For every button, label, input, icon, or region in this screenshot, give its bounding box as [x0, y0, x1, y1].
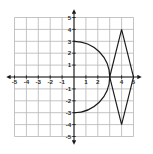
x-tick-label: -4 — [24, 78, 30, 85]
y-tick-label: 4 — [68, 26, 72, 33]
coordinate-graph-figure: -5-4-3-2-1124554321-1-2-3-4-5 — [0, 0, 153, 154]
y-tick-label: -2 — [66, 97, 72, 104]
x-tick-label: 2 — [96, 78, 100, 85]
y-tick-label: -5 — [66, 133, 72, 140]
x-tick-label: 1 — [84, 78, 88, 85]
x-tick-label: 5 — [132, 78, 136, 85]
y-tick-label: -1 — [66, 85, 72, 92]
y-tick-label: 1 — [68, 61, 72, 68]
y-tick-label: 3 — [68, 38, 72, 45]
axes — [8, 11, 140, 143]
y-tick-label: 5 — [68, 14, 72, 21]
y-tick-label: -4 — [66, 121, 72, 128]
x-tick-label: -2 — [47, 78, 53, 85]
x-tick-label: -3 — [36, 78, 42, 85]
y-tick-label: 2 — [68, 49, 72, 56]
y-tick-label: -3 — [66, 109, 72, 116]
graph-canvas: -5-4-3-2-1124554321-1-2-3-4-5 — [0, 0, 153, 154]
x-tick-label: 4 — [120, 78, 124, 85]
x-tick-label: -1 — [59, 78, 65, 85]
x-tick-label: -5 — [12, 78, 18, 85]
